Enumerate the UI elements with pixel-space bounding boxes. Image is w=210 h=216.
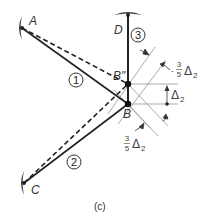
vertical-displacement-label: Δ 2	[171, 88, 185, 104]
member-1-tag: 1	[69, 73, 83, 87]
svg-text:5: 5	[177, 70, 182, 79]
member1-elongation-label: - 3 5 Δ 2	[171, 60, 198, 80]
delta-arrow-icon	[165, 85, 170, 104]
svg-text:-: -	[171, 66, 174, 75]
member-3-tag: 3	[131, 28, 145, 42]
member2-elongation-label: 3 5 Δ 2	[124, 134, 146, 153]
svg-text:3: 3	[135, 29, 141, 41]
node-b-displaced	[125, 81, 131, 87]
svg-text:5: 5	[125, 144, 130, 153]
label-b-displaced: B"	[113, 69, 126, 83]
member-2-tag: 2	[67, 155, 81, 169]
label-d: D	[114, 23, 123, 37]
node-c	[22, 181, 26, 185]
svg-text:2: 2	[193, 71, 198, 80]
construction-lines	[108, 47, 178, 136]
member-2	[24, 104, 128, 183]
svg-text:2: 2	[180, 95, 185, 104]
svg-text:3: 3	[177, 60, 182, 69]
node-d	[126, 13, 130, 17]
label-a: A	[28, 14, 37, 28]
truss-displacement-diagram: A D C B B" 1 2 3 - 3 5 Δ 2 Δ 2 3 5 Δ 2 (…	[0, 0, 210, 216]
svg-text:3: 3	[125, 134, 130, 143]
node-a	[20, 26, 24, 30]
svg-text:Δ: Δ	[184, 64, 193, 78]
figure-caption: (c)	[94, 201, 106, 212]
svg-text:Δ: Δ	[171, 88, 180, 102]
svg-text:1: 1	[73, 74, 79, 86]
label-c: C	[31, 183, 40, 197]
svg-text:2: 2	[71, 156, 77, 168]
member-1	[22, 28, 128, 104]
svg-text:2: 2	[141, 144, 146, 153]
label-b: B	[123, 107, 131, 121]
svg-text:Δ: Δ	[132, 137, 141, 151]
